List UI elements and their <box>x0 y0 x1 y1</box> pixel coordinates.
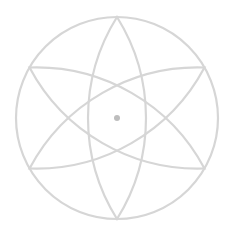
center-dot <box>114 115 120 121</box>
rosette-diagram <box>0 0 234 240</box>
